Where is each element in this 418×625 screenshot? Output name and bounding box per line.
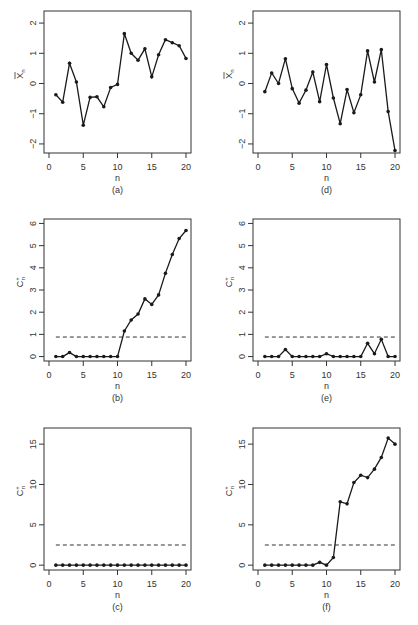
y-tick-label: 6 (237, 221, 247, 226)
x-axis-label: n (115, 590, 120, 600)
data-point (109, 563, 113, 567)
data-point (61, 355, 65, 359)
data-point (338, 122, 342, 126)
svg-text:C+n: C+n (14, 277, 26, 288)
y-tick-label: 0 (237, 354, 247, 359)
x-tick-label: 10 (112, 162, 122, 172)
data-point (284, 563, 288, 567)
data-point (277, 82, 281, 86)
x-tick-label: 0 (46, 370, 51, 380)
y-tick-label: −1 (28, 109, 38, 119)
x-axis: 05101520 (46, 570, 191, 589)
data-point (177, 237, 181, 241)
data-point (171, 253, 175, 257)
plot-frame (44, 428, 191, 570)
data-point (359, 93, 363, 97)
data-point (184, 563, 188, 567)
data-point (81, 123, 85, 127)
data-point (177, 44, 181, 48)
panel-caption: (a) (112, 185, 123, 195)
y-tick-label: 3 (237, 287, 247, 292)
data-point (136, 312, 140, 316)
data-point (332, 556, 336, 560)
plot-frame (253, 428, 400, 570)
series-points (54, 229, 188, 359)
chart-a: −2−101205101520n(a)Xn (0, 0, 209, 208)
data-point (88, 563, 92, 567)
data-point (270, 355, 274, 359)
data-point (290, 563, 294, 567)
y-tick-label: 2 (237, 310, 247, 315)
data-point (68, 563, 72, 567)
series-line (56, 231, 186, 357)
y-axis: 0123456 (237, 221, 253, 359)
data-point (352, 481, 356, 485)
data-point (393, 355, 397, 359)
data-point (304, 563, 308, 567)
data-point (311, 563, 315, 567)
data-point (311, 70, 315, 74)
x-axis: 05101520 (46, 153, 191, 172)
data-point (116, 83, 120, 87)
data-point (123, 563, 127, 567)
svg-text:C+n: C+n (223, 277, 235, 288)
data-point (150, 75, 154, 79)
y-axis: −2−1012 (237, 21, 253, 149)
x-axis: 05101520 (46, 361, 191, 380)
data-point (380, 456, 384, 460)
y-tick-label: −2 (237, 139, 247, 149)
y-axis-label: Xn (224, 69, 235, 79)
panel-caption: (c) (112, 602, 123, 612)
x-tick-label: 0 (46, 162, 51, 172)
data-point (164, 38, 168, 42)
data-point (373, 352, 377, 356)
data-point (95, 95, 99, 99)
data-point (325, 63, 329, 67)
panel-d: −2−101205101520n(d)Xn (209, 0, 418, 208)
y-axis: 0123456 (28, 221, 44, 359)
y-tick-label: 0 (237, 563, 247, 568)
x-tick-label: 10 (112, 579, 122, 589)
data-point (270, 563, 274, 567)
x-tick-label: 15 (147, 579, 157, 589)
svg-text:Xn: Xn (15, 69, 26, 78)
x-tick-label: 0 (46, 579, 51, 589)
data-point (143, 47, 147, 51)
y-axis-label: C+n (14, 277, 26, 288)
data-point (325, 563, 329, 567)
panel-c: 05101505101520n(c)C+n (0, 417, 209, 625)
plot-frame (253, 219, 400, 361)
x-tick-label: 5 (81, 370, 86, 380)
y-tick-label: 2 (28, 310, 38, 315)
x-tick-label: 10 (112, 370, 122, 380)
data-point (352, 111, 356, 115)
x-tick-label: 15 (356, 579, 366, 589)
panel-caption: (d) (321, 185, 332, 195)
data-point (136, 58, 140, 62)
data-point (277, 355, 281, 359)
data-point (318, 100, 322, 104)
y-tick-label: 2 (237, 21, 247, 26)
data-point (270, 71, 274, 75)
y-axis: 051015 (28, 439, 44, 568)
series-line (265, 438, 395, 565)
series-points (263, 48, 397, 153)
panel-e: 012345605101520n(e)C+n (209, 208, 418, 416)
x-axis-label: n (324, 381, 329, 391)
data-point (386, 110, 390, 114)
y-axis-label: Xn (15, 69, 26, 79)
svg-text:Xn: Xn (224, 69, 235, 78)
data-point (184, 229, 188, 233)
data-point (318, 561, 322, 565)
x-tick-label: 5 (290, 162, 295, 172)
panel-b: 012345605101520n(b)C+n (0, 208, 209, 416)
y-tick-label: 1 (28, 332, 38, 337)
data-point (136, 563, 140, 567)
data-point (304, 355, 308, 359)
y-axis: −2−1012 (28, 21, 44, 149)
data-point (75, 355, 79, 359)
data-point (164, 272, 168, 276)
data-point (290, 355, 294, 359)
data-point (150, 303, 154, 307)
x-tick-label: 10 (321, 162, 331, 172)
